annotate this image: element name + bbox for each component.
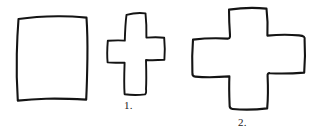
hand-drawn-square-shape xyxy=(17,16,88,100)
figure-canvas: 1. 2. xyxy=(0,0,320,135)
shape-label-1: 1. xyxy=(124,99,133,111)
shape-label-2: 2. xyxy=(238,116,247,128)
shapes-drawing xyxy=(0,0,320,135)
hand-drawn-cross-tall-shape xyxy=(107,13,165,95)
hand-drawn-cross-wide-shape xyxy=(192,8,305,110)
